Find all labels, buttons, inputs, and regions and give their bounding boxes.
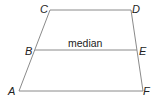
vertex-label-f: F <box>143 85 151 97</box>
trapezoid-diagram: median C D B E A F <box>0 0 158 103</box>
vertex-label-a: A <box>7 85 15 97</box>
vertex-label-e: E <box>139 45 147 57</box>
median-label: median <box>68 37 103 49</box>
vertex-label-d: D <box>132 3 140 15</box>
vertex-label-b: B <box>25 45 32 57</box>
vertex-label-c: C <box>40 3 48 15</box>
